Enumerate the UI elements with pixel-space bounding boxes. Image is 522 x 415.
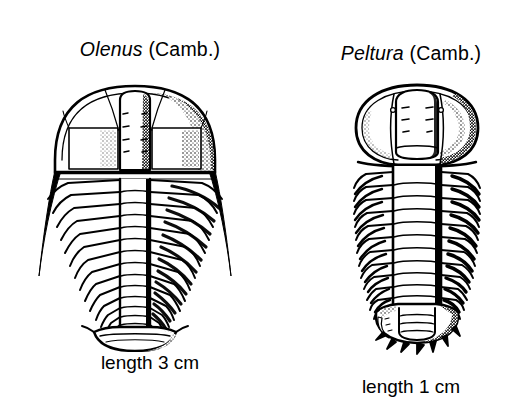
geologic-age-peltura: (Camb.) [409, 42, 481, 64]
genus-name-peltura: Peltura [341, 42, 404, 64]
trilobite-olenus-drawing [22, 80, 278, 352]
figure-title-peltura: Peltura (Camb.) [300, 42, 522, 65]
genus-name-olenus: Olenus [80, 38, 143, 60]
figure-title-olenus: Olenus (Camb.) [0, 38, 300, 61]
figure-caption-olenus: length 3 cm [0, 352, 300, 374]
trilobite-peltura-drawing [336, 80, 498, 360]
geologic-age-olenus: (Camb.) [148, 38, 220, 60]
figure-caption-peltura: length 1 cm [300, 376, 522, 398]
figure-panel-olenus: Olenus (Camb.) [0, 0, 300, 415]
figure-panel-peltura: Peltura (Camb.) [300, 0, 522, 415]
